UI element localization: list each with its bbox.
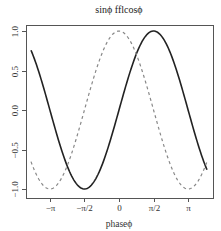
chart-title: sinϕ fflcosϕ — [95, 4, 142, 15]
y-tick-label: 1.0 — [10, 25, 20, 37]
x-axis: −π−π/20π/2π — [46, 198, 192, 213]
y-tick-label: −0.5 — [10, 142, 20, 159]
x-tick-label: π — [186, 203, 191, 213]
sin-cos-chart: sinϕ fflcosϕ −π−π/20π/2π −1.0−0.50.00.51… — [0, 0, 221, 231]
x-axis-label: phaseϕ — [106, 219, 133, 229]
y-tick-label: −1.0 — [10, 181, 20, 198]
y-axis: −1.0−0.50.00.51.0 — [10, 25, 26, 197]
x-tick-label: −π — [46, 203, 56, 213]
series-layer — [31, 31, 207, 189]
x-tick-label: 0 — [117, 203, 122, 213]
x-tick-label: π/2 — [149, 203, 161, 213]
sin-curve — [31, 31, 207, 189]
x-tick-label: −π/2 — [76, 203, 93, 213]
plot-area-frame — [27, 26, 214, 199]
y-tick-label: 0.5 — [10, 65, 20, 77]
y-tick-label: 0.0 — [10, 104, 20, 116]
